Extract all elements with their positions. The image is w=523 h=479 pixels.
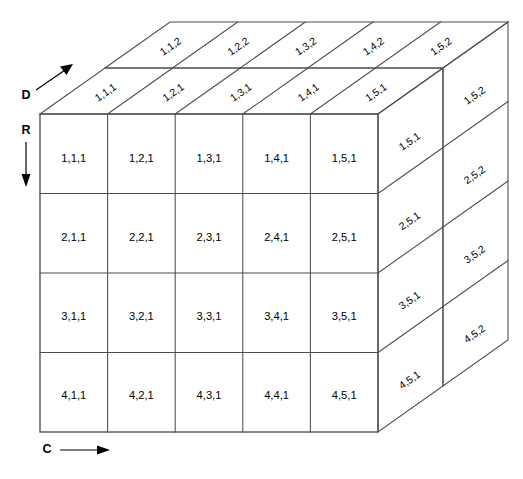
row-axis: R <box>21 123 30 187</box>
depth-arrowhead <box>60 64 73 75</box>
cell-label: 1,4,1 <box>264 152 289 164</box>
cell-label: 1,1,1 <box>61 152 86 164</box>
column-axis-label: C <box>42 442 51 456</box>
cell-label: 1,2,1 <box>129 152 154 164</box>
cube-diagram-svg: 1,1,1 1,2,1 1,3,1 1,4,1 1,5,1 2,1,1 2,2,… <box>0 0 523 479</box>
cell-label: 1,3,1 <box>197 152 222 164</box>
cell-label: 3,2,1 <box>129 310 154 322</box>
row-arrowhead <box>22 174 31 187</box>
row-axis-label: R <box>21 123 30 137</box>
cell-label: 1,5,1 <box>332 152 357 164</box>
column-axis: C <box>42 442 110 456</box>
cell-label: 4,1,1 <box>61 389 86 401</box>
depth-axis-label: D <box>21 88 30 102</box>
cell-label: 3,1,1 <box>61 310 86 322</box>
column-arrowhead <box>97 446 110 455</box>
cell-label: 2,4,1 <box>264 231 289 243</box>
cell-label: 3,5,1 <box>332 310 357 322</box>
cell-label: 2,5,1 <box>332 231 357 243</box>
cell-label: 2,3,1 <box>197 231 222 243</box>
cell-label: 3,3,1 <box>197 310 222 322</box>
three-dimensional-array-figure: 1,1,1 1,2,1 1,3,1 1,4,1 1,5,1 2,1,1 2,2,… <box>0 0 523 479</box>
cell-label: 2,2,1 <box>129 231 154 243</box>
cell-label: 4,3,1 <box>197 389 222 401</box>
cell-label: 4,2,1 <box>129 389 154 401</box>
cell-label: 4,4,1 <box>264 389 289 401</box>
cell-label: 4,5,1 <box>332 389 357 401</box>
cell-label: 2,1,1 <box>61 231 86 243</box>
cell-label: 3,4,1 <box>264 310 289 322</box>
